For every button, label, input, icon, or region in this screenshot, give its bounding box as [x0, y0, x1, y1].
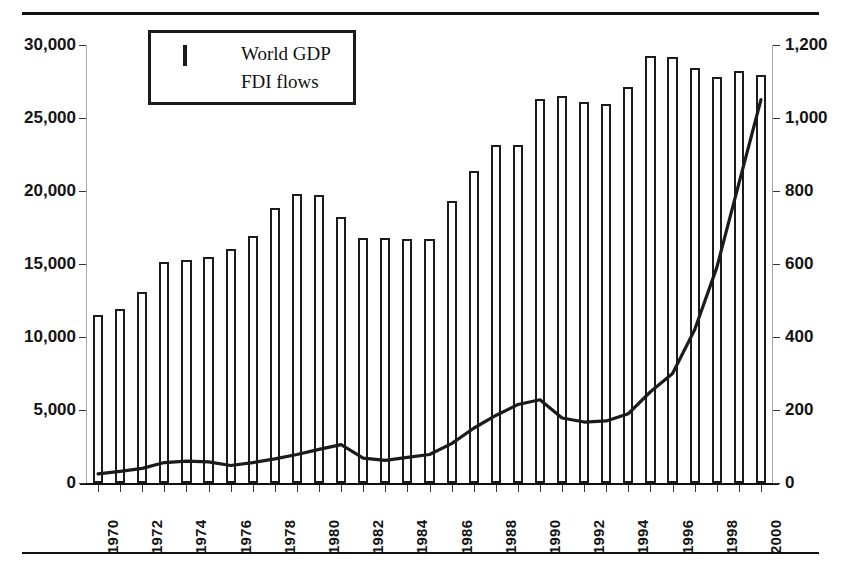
x-tick-mark	[562, 485, 563, 492]
left-tick-mark	[79, 264, 86, 265]
x-tick-mark	[385, 485, 386, 492]
chart-legend: World GDP FDI flows	[148, 30, 356, 105]
fdi-flows-line	[87, 45, 772, 483]
x-tick-mark	[186, 485, 187, 492]
right-tick-label: 600	[785, 255, 841, 272]
x-tick-mark	[407, 485, 408, 492]
right-axis-tick-labels: 02004006008001,0001,200	[785, 0, 841, 561]
top-rule	[22, 12, 819, 15]
left-tick-label: 0	[6, 474, 76, 491]
left-tick-label: 30,000	[6, 36, 76, 53]
legend-label-world-gdp: World GDP	[241, 41, 331, 67]
x-tick-label: 1976	[237, 520, 254, 554]
x-tick-mark	[452, 485, 453, 492]
left-tick-label: 15,000	[6, 255, 76, 272]
right-tick-label: 400	[785, 328, 841, 345]
x-tick-mark	[319, 485, 320, 492]
x-tick-label: 1988	[502, 520, 519, 554]
legend-box-icon	[183, 47, 187, 65]
fdi-line-svg	[87, 45, 772, 483]
left-tick-label: 25,000	[6, 109, 76, 126]
x-tick-label: 1996	[679, 520, 696, 554]
x-tick-mark	[474, 485, 475, 492]
left-tick-mark	[79, 410, 86, 411]
right-tick-label: 1,200	[785, 36, 841, 53]
x-tick-mark	[209, 485, 210, 492]
x-tick-mark	[231, 485, 232, 492]
x-tick-mark	[584, 485, 585, 492]
figure-container: 05,00010,00015,00020,00025,00030,000 020…	[0, 0, 841, 561]
x-tick-label: 1984	[413, 520, 430, 554]
left-axis-tick-labels: 05,00010,00015,00020,00025,00030,000	[0, 0, 76, 561]
right-tick-label: 800	[785, 182, 841, 199]
x-tick-label: 1982	[369, 520, 386, 554]
legend-entry-fdi-flows: FDI flows	[151, 69, 359, 95]
x-tick-mark	[761, 485, 762, 492]
right-tick-label: 200	[785, 401, 841, 418]
left-tick-label: 10,000	[6, 328, 76, 345]
x-tick-mark	[650, 485, 651, 492]
x-tick-mark	[739, 485, 740, 492]
left-tick-label: 20,000	[6, 182, 76, 199]
x-tick-label: 1978	[281, 520, 298, 554]
x-tick-mark	[606, 485, 607, 492]
right-tick-mark	[773, 264, 780, 265]
right-tick-label: 0	[785, 474, 841, 491]
x-tick-mark	[673, 485, 674, 492]
x-tick-mark	[540, 485, 541, 492]
x-tick-mark	[297, 485, 298, 492]
left-tick-mark	[79, 337, 86, 338]
legend-label-fdi-flows: FDI flows	[241, 69, 319, 95]
x-tick-mark	[518, 485, 519, 492]
right-tick-mark	[773, 45, 780, 46]
x-tick-mark	[363, 485, 364, 492]
x-tick-label: 2000	[767, 520, 784, 554]
x-tick-mark	[717, 485, 718, 492]
x-tick-label: 1990	[546, 520, 563, 554]
right-tick-mark	[773, 118, 780, 119]
x-tick-label: 1974	[192, 520, 209, 554]
right-tick-mark	[773, 337, 780, 338]
left-tick-mark	[79, 191, 86, 192]
x-tick-label: 1992	[590, 520, 607, 554]
x-tick-mark	[695, 485, 696, 492]
left-tick-label: 5,000	[6, 401, 76, 418]
left-tick-mark	[79, 45, 86, 46]
x-tick-mark	[496, 485, 497, 492]
right-tick-mark	[773, 483, 780, 484]
x-tick-mark	[98, 485, 99, 492]
right-tick-mark	[773, 191, 780, 192]
x-tick-mark	[142, 485, 143, 492]
x-tick-mark	[341, 485, 342, 492]
x-tick-mark	[253, 485, 254, 492]
legend-entry-world-gdp: World GDP	[151, 41, 359, 67]
x-tick-label: 1986	[458, 520, 475, 554]
left-tick-mark	[79, 483, 86, 484]
x-tick-mark	[164, 485, 165, 492]
x-tick-mark	[628, 485, 629, 492]
x-tick-label: 1994	[634, 520, 651, 554]
x-tick-label: 1980	[325, 520, 342, 554]
x-tick-mark	[275, 485, 276, 492]
x-tick-label: 1970	[104, 520, 121, 554]
fdi-line-path	[98, 100, 761, 474]
x-tick-label: 1972	[148, 520, 165, 554]
x-tick-mark	[120, 485, 121, 492]
right-tick-mark	[773, 410, 780, 411]
x-tick-label: 1998	[723, 520, 740, 554]
x-tick-mark	[430, 485, 431, 492]
left-tick-mark	[79, 118, 86, 119]
right-tick-label: 1,000	[785, 109, 841, 126]
